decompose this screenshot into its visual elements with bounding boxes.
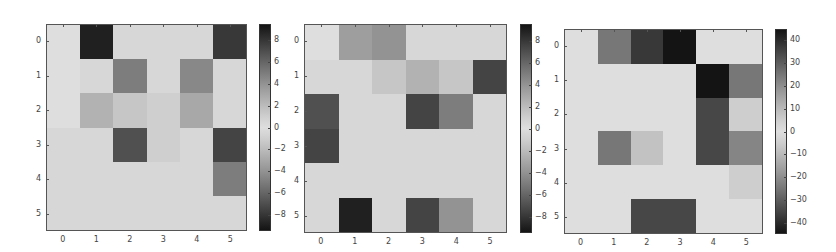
heatmap-cell (439, 94, 473, 129)
colorbar-tick-mark (268, 171, 271, 172)
heatmap-cell (598, 131, 631, 165)
heatmap-cell (80, 196, 113, 230)
heatmap-cell (565, 131, 598, 165)
heatmap-cell (213, 128, 246, 162)
heatmap-grid (46, 24, 247, 231)
heatmap-cell (47, 59, 80, 93)
colorbar-tick-mark (784, 63, 787, 64)
heatmap-cell (305, 25, 339, 60)
colorbar-tick-label: 0 (274, 124, 279, 132)
y-tick-label: 1 (27, 72, 41, 80)
heatmap-cell (663, 199, 696, 233)
heatmap-cell (47, 25, 80, 59)
y-tick-mark (304, 41, 307, 42)
heatmap-cell (696, 64, 729, 98)
heatmap-cell (339, 163, 373, 198)
heatmap-cell (473, 129, 507, 164)
y-tick-label: 3 (545, 145, 559, 153)
heatmap-cell (729, 98, 762, 132)
colorbar-tick-label: 6 (535, 59, 540, 67)
y-tick-mark (46, 76, 49, 77)
heatmap-cell (372, 129, 406, 164)
colorbar-tick-label: 4 (274, 80, 279, 88)
heatmap-cell (696, 199, 729, 233)
y-tick-mark (564, 114, 567, 115)
colorbar-tick-label: 6 (274, 58, 279, 66)
heatmap-cell (696, 30, 729, 64)
heatmap-cell (729, 199, 762, 233)
y-tick-label: 2 (27, 106, 41, 114)
heatmap-cell (439, 163, 473, 198)
colorbar-tick-mark (784, 109, 787, 110)
colorbar-tick-label: −4 (274, 167, 286, 175)
heatmap-cell (729, 64, 762, 98)
heatmap-cell (213, 93, 246, 127)
heatmap-cell (180, 59, 213, 93)
heatmap-cell (406, 60, 440, 95)
y-tick-mark (46, 110, 49, 111)
heatmap-cell (729, 165, 762, 199)
y-tick-mark (46, 41, 49, 42)
x-tick-mark (456, 24, 457, 27)
colorbar-tick-mark (529, 173, 532, 174)
heatmap-cell (473, 163, 507, 198)
y-tick-label: 0 (545, 42, 559, 50)
heatmap-cell (339, 94, 373, 129)
heatmap-cell (305, 60, 339, 95)
y-tick-mark (304, 76, 307, 77)
heatmap-cell (305, 129, 339, 164)
x-tick-mark (230, 24, 231, 27)
colorbar-tick-label: 4 (535, 81, 540, 89)
heatmap-cell (663, 98, 696, 132)
heatmap-cell (147, 162, 180, 196)
heatmap-cell (631, 199, 664, 233)
heatmap-cell (729, 30, 762, 64)
colorbar-tick-label: −6 (535, 191, 547, 199)
heatmap-cell (565, 199, 598, 233)
heatmap-cell (180, 196, 213, 230)
colorbar-tick-label: 2 (274, 102, 279, 110)
heatmap-cell (631, 98, 664, 132)
y-tick-label: 2 (285, 107, 299, 115)
colorbar-tick-mark (784, 154, 787, 155)
y-tick-label: 4 (545, 179, 559, 187)
x-tick-mark (163, 24, 164, 27)
x-tick-mark (713, 29, 714, 32)
colorbar-tick-mark (529, 85, 532, 86)
heatmap-cell (598, 98, 631, 132)
x-tick-label: 0 (56, 236, 70, 244)
x-tick-mark (197, 24, 198, 27)
heatmap-cell (339, 25, 373, 60)
x-tick-mark (96, 24, 97, 27)
heatmap-cell (180, 162, 213, 196)
colorbar-tick-label: −30 (790, 196, 807, 204)
y-tick-label: 3 (27, 141, 41, 149)
heatmap-cell (80, 162, 113, 196)
heatmap-grid (564, 29, 763, 234)
heatmap-cell (439, 25, 473, 60)
y-tick-label: 5 (545, 213, 559, 221)
heatmap-cell (565, 30, 598, 64)
colorbar-tick-mark (784, 40, 787, 41)
heatmap-cell (180, 128, 213, 162)
y-tick-label: 2 (545, 110, 559, 118)
x-tick-label: 2 (123, 236, 137, 244)
y-tick-label: 3 (285, 142, 299, 150)
x-tick-mark (680, 29, 681, 32)
heatmap-cell (339, 60, 373, 95)
y-tick-mark (46, 214, 49, 215)
colorbar-tick-label: −6 (274, 189, 286, 197)
heatmap-cell (473, 60, 507, 95)
colorbar-tick-label: 0 (535, 125, 540, 133)
colorbar-tick-label: 8 (535, 37, 540, 45)
heatmap-cell (631, 30, 664, 64)
colorbar-tick-mark (784, 223, 787, 224)
heatmap-cell (80, 93, 113, 127)
heatmap-cell (631, 64, 664, 98)
heatmap-cell (473, 198, 507, 233)
y-tick-label: 4 (285, 177, 299, 185)
heatmap-cell (439, 129, 473, 164)
x-tick-label: 4 (706, 239, 720, 247)
colorbar-tick-label: 10 (790, 105, 800, 113)
heatmap-cell (47, 196, 80, 230)
